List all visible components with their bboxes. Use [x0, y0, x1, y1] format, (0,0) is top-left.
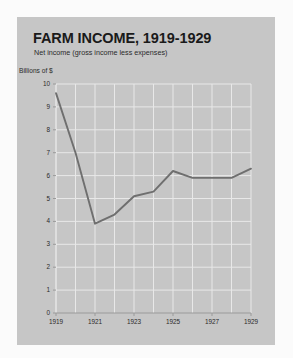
- plot-area: 012345678910 191919211923192519271929: [17, 17, 275, 345]
- y-tick-label: 7: [34, 149, 50, 156]
- grid-lines: [56, 84, 251, 313]
- y-tick-label: 8: [34, 126, 50, 133]
- y-tick-label: 10: [34, 80, 50, 87]
- y-tick-label: 3: [34, 240, 50, 247]
- y-tick-label: 1: [34, 286, 50, 293]
- x-tick-label: 1921: [82, 318, 108, 325]
- line-chart-svg: [17, 17, 275, 345]
- y-tick-label: 5: [34, 195, 50, 202]
- chart-card: FARM INCOME, 1919-1929 Net income (gross…: [17, 17, 275, 345]
- x-tick-label: 1925: [160, 318, 186, 325]
- y-tick-label: 6: [34, 172, 50, 179]
- x-tick-label: 1919: [43, 318, 69, 325]
- y-tick-label: 2: [34, 263, 50, 270]
- x-tick-label: 1923: [121, 318, 147, 325]
- y-tick-label: 4: [34, 217, 50, 224]
- y-tick-label: 0: [34, 309, 50, 316]
- tick-marks: [53, 84, 251, 316]
- x-tick-label: 1927: [199, 318, 225, 325]
- y-tick-label: 9: [34, 103, 50, 110]
- x-tick-label: 1929: [238, 318, 264, 325]
